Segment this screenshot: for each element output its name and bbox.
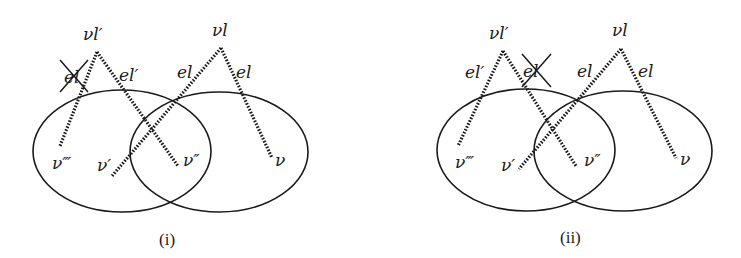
caption-i: (i) [159,230,175,249]
label-v-double: ν″ [183,150,200,170]
label-v-double: ν″ [584,150,601,170]
diagram-canvas: νl′ νl el el′ el el ν‴ ν′ ν″ ν (i) νl′ ν… [0,0,741,258]
label-el-left: el [177,62,193,82]
label-el-right: el [638,61,654,81]
label-el-right: el [236,62,252,82]
label-v: ν [275,150,285,170]
label-v-triple: ν‴ [52,153,71,173]
panel-ii: νl′ νl el′ el el el ν‴ ν′ ν″ ν (ii) [437,20,712,247]
label-el-crossed: el [523,61,539,81]
edge-vl-prime-to-v-double [503,51,576,166]
label-el-crossed: el [64,67,80,87]
label-vl: νl [212,20,228,40]
label-vl-prime: νl′ [83,24,103,44]
label-v: ν [680,149,690,169]
label-el-prime: el′ [465,62,484,82]
label-vl-prime: νl′ [489,23,509,43]
label-el-prime: el′ [119,65,138,85]
label-v-prime: ν′ [97,155,111,175]
caption-ii: (ii) [560,228,581,247]
panel-i: νl′ νl el el′ el el ν‴ ν′ ν″ ν (i) [33,20,308,249]
label-vl: νl [612,20,628,40]
label-v-triple: ν‴ [455,152,474,172]
label-el-left: el [577,61,593,81]
label-v-prime: ν′ [501,155,515,175]
